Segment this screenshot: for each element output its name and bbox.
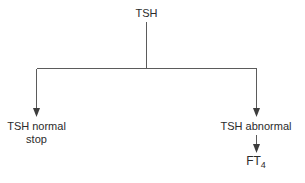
node-tsh-abnormal: TSH abnormal xyxy=(196,120,305,133)
arrowhead-ft4 xyxy=(253,144,260,153)
flowchart-canvas: TSH TSH normal stop TSH abnormal FT4 xyxy=(0,0,305,183)
arrowhead-left-branch xyxy=(33,108,40,117)
node-tsh-normal-line1: TSH normal xyxy=(0,120,73,133)
node-tsh-root: TSH xyxy=(0,7,293,20)
node-tsh-root-label: TSH xyxy=(136,7,158,19)
node-ft4-subscript: 4 xyxy=(261,160,266,170)
arrowhead-right-branch xyxy=(253,108,260,117)
node-tsh-normal-line2: stop xyxy=(0,133,73,146)
node-tsh-normal: TSH normal stop xyxy=(0,120,73,146)
node-ft4: FT4 xyxy=(216,155,296,172)
node-ft4-label: FT xyxy=(246,154,261,168)
node-tsh-abnormal-label: TSH abnormal xyxy=(221,120,292,132)
